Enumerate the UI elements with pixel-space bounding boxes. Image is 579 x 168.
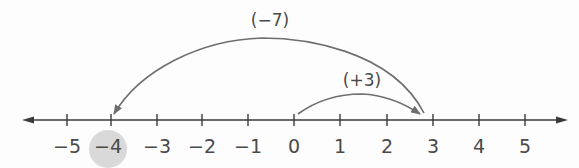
tick-label: −2 — [182, 134, 222, 158]
tick-label: −1 — [228, 134, 268, 158]
tick-label: −5 — [47, 134, 87, 158]
left-arrow-icon — [22, 117, 34, 124]
jump-label-minus-7: (−7) — [251, 10, 289, 30]
jump-label-plus-3: (+3) — [343, 70, 381, 90]
tick-label: −3 — [137, 134, 177, 158]
tick-label: 2 — [367, 134, 407, 158]
tick-label: 0 — [274, 134, 314, 158]
tick-label: 5 — [505, 134, 545, 158]
tick-label: −4 — [88, 134, 128, 158]
tick-label: 1 — [320, 134, 360, 158]
jump-arc-plus-3 — [298, 94, 420, 114]
right-arrow-icon — [556, 117, 568, 124]
number-line-diagram: −5−4−3−2−1012345 (−7) (+3) — [0, 0, 579, 168]
tick-label: 4 — [459, 134, 499, 158]
tick-label: 3 — [413, 134, 453, 158]
